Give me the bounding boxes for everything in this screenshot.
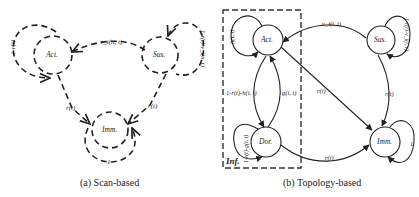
label-sus-to-act: v_i(n, t) — [100, 38, 123, 46]
label-sus-self: 1-r(t)-v_i(n, t) — [199, 30, 207, 67]
label-act-self: 1-r(t) — [9, 39, 17, 55]
label-act-to-imm-b: r(t) — [317, 87, 326, 95]
edge-dor-to-act — [268, 56, 280, 127]
node-sus-b-label: Sus. — [374, 35, 386, 44]
node-dor-label: Dor. — [258, 137, 272, 146]
node-act-b-label: Act. — [260, 35, 273, 44]
label-dor-to-imm: r(t) — [325, 154, 334, 162]
edge-sus-to-imm — [128, 74, 166, 124]
panel-topology-based: Inf. h(i, t) Act. v_i(i, t) Sus. 1-r(t)-… — [223, 10, 414, 189]
caption-topology-based: (b) Topology-based — [283, 177, 361, 189]
edge-act-to-imm — [58, 75, 90, 124]
label-sus-to-imm-b: r(t) — [385, 90, 394, 98]
label-act-to-dor: 1-r(t)-h(i, t) — [226, 89, 257, 97]
node-imm-label: Imm. — [101, 125, 117, 134]
node-sus-label: Sus. — [153, 50, 165, 59]
label-sus-self-b: 1-r(t)-v_i(i, t) — [403, 18, 410, 51]
edge-sus-to-act-b — [283, 25, 366, 42]
node-imm-b-label: Imm. — [376, 137, 392, 146]
label-dor-to-act: g(i, t) — [282, 89, 296, 97]
label-sus-to-imm: r(t) — [148, 102, 158, 110]
label-act-self-b: h(i, t) — [228, 30, 236, 44]
node-act-label: Act. — [45, 50, 58, 59]
state-diagram: 1-r(t) Act. v_i(n, t) 1-r(t)-v_i(n, t) S… — [0, 0, 419, 197]
infected-group-label: Inf. — [225, 156, 240, 166]
panel-scan-based: 1-r(t) Act. v_i(n, t) 1-r(t)-v_i(n, t) S… — [9, 23, 207, 189]
caption-scan-based: (a) Scan-based — [80, 177, 139, 189]
label-act-to-imm: r(t) — [66, 104, 76, 112]
label-imm-self-b: 1 — [410, 140, 413, 147]
label-imm-self: 1 — [107, 158, 111, 166]
label-sus-to-act-b: v_i(i, t) — [322, 20, 341, 28]
label-dor-self: 1-r(t)-g(i, t) — [243, 135, 250, 163]
